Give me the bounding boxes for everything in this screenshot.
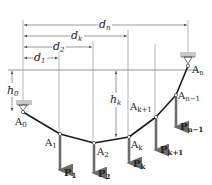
joints: [21, 64, 189, 144]
label-pn1: Pn−1: [180, 121, 203, 134]
label-ak1: Ak+1: [129, 101, 152, 114]
cable: [23, 66, 188, 143]
label-pk1: Pk+1: [160, 144, 183, 157]
load-arrows: [60, 97, 176, 173]
label-ak: Ak: [130, 139, 143, 152]
label-pk: Pk: [133, 158, 146, 171]
label-a2: A2: [96, 146, 109, 159]
label-p1: P1: [64, 167, 77, 180]
label-an: An: [191, 64, 204, 77]
label-a0: A0: [14, 116, 27, 129]
label-a1: A1: [44, 137, 57, 150]
label-p2: P2: [98, 168, 111, 181]
support-a0: [16, 100, 32, 111]
support-an: [180, 52, 196, 64]
cable-diagram: dn dk d2 d1 h0 hk A0 A1 A2 Ak Ak+1 An−1: [0, 0, 212, 185]
extension-lines: [23, 20, 188, 141]
label-an1: An−1: [177, 90, 200, 103]
